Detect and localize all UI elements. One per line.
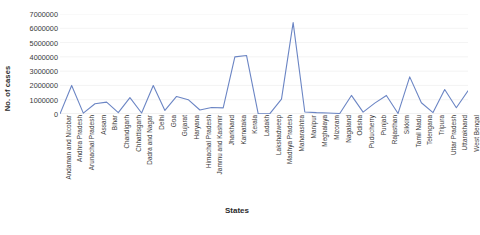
y-tick-label: 6000000 bbox=[30, 24, 58, 33]
x-tick-label: Meghalaya bbox=[321, 115, 328, 147]
x-tick-label: Jammu and Kashmir bbox=[216, 115, 223, 174]
x-tick-label: Karnataka bbox=[240, 115, 247, 145]
x-tick-label: Chhattisgarh bbox=[135, 115, 142, 152]
y-tick-label: 5000000 bbox=[30, 38, 58, 47]
x-tick-label: Mizoram bbox=[333, 115, 340, 140]
x-tick-label: Tripura bbox=[438, 115, 445, 135]
x-tick-label: Lakshadweep bbox=[275, 115, 282, 155]
x-tick-label: Punjab bbox=[380, 115, 387, 135]
y-tick-label: 7000000 bbox=[30, 10, 58, 19]
x-tick-label: Haryana bbox=[193, 115, 200, 140]
x-tick-label: Bihar bbox=[111, 115, 118, 130]
x-tick-label: West Bengal bbox=[473, 115, 480, 152]
gridlines bbox=[60, 14, 468, 114]
x-tick-label: Sikkim bbox=[403, 115, 410, 134]
x-tick-label: Ladakh bbox=[263, 115, 270, 136]
x-tick-label: Nagaland bbox=[345, 115, 352, 143]
plot-area bbox=[60, 14, 468, 114]
x-axis-labels: Andaman and NicobarAndhra PradeshArunach… bbox=[60, 115, 468, 200]
y-tick-label: 0 bbox=[54, 110, 58, 119]
x-tick-label: Andaman and Nicobar bbox=[65, 115, 72, 180]
x-tick-label: Madhya Pradesh bbox=[286, 115, 293, 164]
x-tick-label: Puducherry bbox=[368, 115, 375, 148]
x-tick-label: Telengana bbox=[426, 115, 433, 145]
x-tick-label: Chandigarh bbox=[123, 115, 130, 149]
x-tick-label: Odisha bbox=[356, 115, 363, 136]
x-tick-label: Delhi bbox=[158, 115, 165, 130]
x-tick-label: Andhra Pradesh bbox=[76, 115, 83, 162]
y-tick-label: 1000000 bbox=[30, 95, 58, 104]
x-tick-label: Dadra and Nagar bbox=[146, 115, 153, 165]
x-tick-label: Kerala bbox=[251, 115, 258, 134]
series-line-cases bbox=[60, 23, 468, 114]
x-tick-label: Assam bbox=[100, 115, 107, 135]
x-tick-label: Tamil Nadu bbox=[415, 115, 422, 147]
x-tick-label: Gujarat bbox=[181, 115, 188, 136]
x-tick-label: Himachal Pradesh bbox=[205, 115, 212, 168]
x-tick-label: Uttarakhand bbox=[461, 115, 468, 150]
y-tick-label: 2000000 bbox=[30, 81, 58, 90]
x-tick-label: Uttar Pradesh bbox=[450, 115, 457, 155]
x-tick-label: Manipur bbox=[310, 115, 317, 138]
x-tick-label: Goa bbox=[170, 115, 177, 127]
y-tick-label: 3000000 bbox=[30, 67, 58, 76]
x-tick-label: Jharkhand bbox=[228, 115, 235, 145]
y-axis-ticks: 7000000600000050000004000000300000020000… bbox=[0, 0, 58, 235]
x-tick-label: Arunachal Pradesh bbox=[88, 115, 95, 170]
series-svg bbox=[60, 14, 468, 114]
x-tick-label: Maharashtra bbox=[298, 115, 305, 151]
x-tick-label: Rajasthan bbox=[391, 115, 398, 144]
y-tick-label: 4000000 bbox=[30, 52, 58, 61]
x-axis-title: States bbox=[0, 206, 474, 215]
